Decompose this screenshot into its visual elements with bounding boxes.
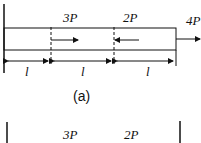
label-3p: 3P (62, 10, 78, 25)
segment-label-3: l (146, 64, 150, 79)
label-2p-b: 2P (124, 127, 139, 142)
bar-body (4, 28, 176, 50)
figure-b: 3P 2P (7, 121, 180, 143)
segment-label-2: l (81, 64, 85, 79)
bar-diagram: 3P 2P 4P l l l (a) 3P 2P (0, 0, 201, 143)
segment-label-1: l (25, 64, 29, 79)
figure-a: 3P 2P 4P l l l (a) (4, 4, 201, 104)
label-3p-b: 3P (62, 127, 78, 142)
caption-a: (a) (73, 88, 90, 104)
label-2p: 2P (123, 10, 138, 25)
label-4p: 4P (186, 13, 201, 28)
